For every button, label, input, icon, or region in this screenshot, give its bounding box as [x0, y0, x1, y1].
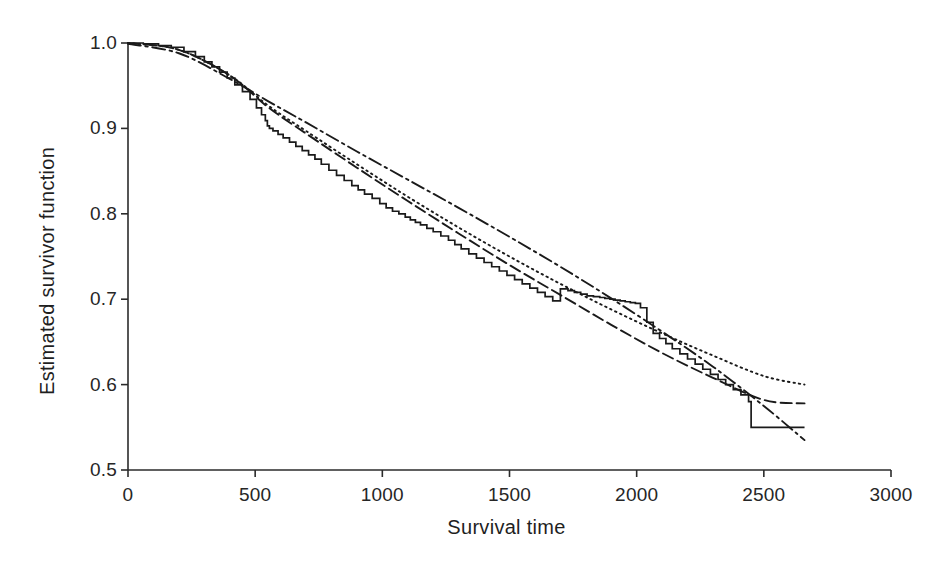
x-tick-label: 3000	[869, 484, 912, 506]
y-tick-label: 0.6	[76, 374, 117, 396]
x-tick-label: 2000	[615, 484, 658, 506]
y-tick-label: 0.7	[76, 288, 117, 310]
y-tick-label: 0.5	[76, 459, 117, 481]
series-solid-step	[128, 43, 805, 427]
data-series-layer	[128, 43, 805, 440]
series-dashdot	[128, 44, 805, 440]
chart-figure: 0500100015002000250030000.50.60.70.80.91…	[0, 0, 952, 566]
axis-ticks	[121, 43, 891, 477]
x-tick-label: 500	[239, 484, 271, 506]
x-axis-title: Survival time	[447, 516, 565, 539]
series-dotted	[128, 43, 805, 385]
x-tick-label: 1000	[361, 484, 404, 506]
y-tick-label: 1.0	[76, 32, 117, 54]
y-tick-label: 0.9	[76, 117, 117, 139]
y-axis-title: Estimated survivor function	[36, 146, 59, 394]
y-tick-label: 0.8	[76, 203, 117, 225]
x-tick-label: 1500	[488, 484, 531, 506]
survivor-function-plot	[0, 0, 952, 566]
series-dashed	[128, 43, 805, 403]
x-tick-label: 0	[123, 484, 134, 506]
x-tick-label: 2500	[742, 484, 785, 506]
